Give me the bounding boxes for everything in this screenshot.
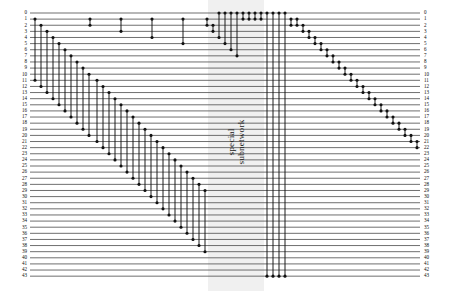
gate-control-dot xyxy=(113,97,116,100)
gate-control-dot xyxy=(149,195,152,198)
gate-control-dot xyxy=(155,140,158,143)
gate-control-dot xyxy=(253,18,256,21)
wire-label-left: 26 xyxy=(8,169,27,174)
gate-control-dot xyxy=(235,54,238,57)
gate-control-dot xyxy=(155,201,158,204)
gate-control-dot xyxy=(331,54,334,57)
gate-control-dot xyxy=(191,177,194,180)
gate-control-dot xyxy=(409,140,412,143)
wire-label-right: 28 xyxy=(424,182,444,187)
wire-label-right: 27 xyxy=(424,176,444,181)
wire-label-right: 6 xyxy=(424,47,444,52)
gate-control-dot xyxy=(203,250,206,253)
gate-control-dot xyxy=(51,97,54,100)
gate-control-dot xyxy=(271,11,274,14)
gate-control-dot xyxy=(39,85,42,88)
gate-control-dot xyxy=(39,24,42,27)
gate-control-dot xyxy=(88,18,91,21)
wire-label-right: 36 xyxy=(424,231,444,236)
wire-label-right: 3 xyxy=(424,29,444,34)
gate-control-dot xyxy=(81,128,84,131)
gate-control-dot xyxy=(197,244,200,247)
gate-control-dot xyxy=(45,91,48,94)
wire-label-right: 43 xyxy=(424,273,444,278)
gate-control-dot xyxy=(343,73,346,76)
gate-control-dot xyxy=(179,164,182,167)
gate-control-dot xyxy=(283,275,286,278)
wire-label-left: 3 xyxy=(8,29,27,34)
gate-control-dot xyxy=(349,73,352,76)
gate-control-dot xyxy=(57,103,60,106)
gate-control-dot xyxy=(69,115,72,118)
wire-label-right: 4 xyxy=(424,35,444,40)
gate-control-dot xyxy=(289,24,292,27)
gate-control-dot xyxy=(63,109,66,112)
gate-control-dot xyxy=(355,79,358,82)
wire-label-left: 1 xyxy=(8,16,27,21)
gate-control-dot xyxy=(409,134,412,137)
gate-control-dot xyxy=(355,85,358,88)
gate-control-dot xyxy=(241,18,244,21)
wire-label-right: 7 xyxy=(424,53,444,58)
gate-control-dot xyxy=(397,128,400,131)
wire-label-right: 8 xyxy=(424,59,444,64)
gate-control-dot xyxy=(397,122,400,125)
wire-label-left: 19 xyxy=(8,127,27,132)
gate-control-dot xyxy=(119,18,122,21)
gate-control-dot xyxy=(229,48,232,51)
gate-control-dot xyxy=(319,42,322,45)
gate-control-dot xyxy=(205,18,208,21)
gate-control-dot xyxy=(143,189,146,192)
wire-label-right: 19 xyxy=(424,127,444,132)
gate-control-dot xyxy=(45,30,48,33)
gate-control-dot xyxy=(181,18,184,21)
gate-control-dot xyxy=(51,36,54,39)
gate-control-dot xyxy=(149,134,152,137)
gate-control-dot xyxy=(205,24,208,27)
gate-control-dot xyxy=(150,36,153,39)
gate-control-dot xyxy=(87,134,90,137)
gate-control-dot xyxy=(403,128,406,131)
gate-control-dot xyxy=(173,158,176,161)
gate-control-dot xyxy=(373,97,376,100)
wire-label-left: 9 xyxy=(8,65,27,70)
gate-control-dot xyxy=(75,122,78,125)
wire-label-left: 36 xyxy=(8,231,27,236)
gate-control-dot xyxy=(131,177,134,180)
gate-control-dot xyxy=(415,140,418,143)
wire-label-right: 34 xyxy=(424,218,444,223)
gate-control-dot xyxy=(391,115,394,118)
gate-control-dot xyxy=(307,36,310,39)
gate-control-dot xyxy=(361,85,364,88)
wire-label-left: 34 xyxy=(8,218,27,223)
gate-control-dot xyxy=(119,164,122,167)
gate-control-dot xyxy=(211,24,214,27)
gate-control-dot xyxy=(325,48,328,51)
wire-label-left: 35 xyxy=(8,225,27,230)
gate-control-dot xyxy=(403,134,406,137)
gate-control-dot xyxy=(277,11,280,14)
gate-control-dot xyxy=(223,11,226,14)
gate-control-dot xyxy=(95,79,98,82)
gate-control-dot xyxy=(373,103,376,106)
gate-control-dot xyxy=(331,60,334,63)
gate-control-dot xyxy=(235,11,238,14)
wire-label-right: 5 xyxy=(424,41,444,46)
wire-label-right: 11 xyxy=(424,78,444,83)
gate-control-dot xyxy=(203,189,206,192)
gate-control-dot xyxy=(101,146,104,149)
gate-control-dot xyxy=(125,109,128,112)
gate-control-dot xyxy=(161,207,164,210)
wire-label-left: 10 xyxy=(8,72,27,77)
gate-control-dot xyxy=(63,48,66,51)
wire-label-right: 9 xyxy=(424,65,444,70)
gate-control-dot xyxy=(88,24,91,27)
gate-control-dot xyxy=(69,54,72,57)
gate-control-dot xyxy=(113,158,116,161)
gate-control-dot xyxy=(385,109,388,112)
gate-control-dot xyxy=(313,42,316,45)
gate-control-dot xyxy=(289,18,292,21)
gate-control-dot xyxy=(301,24,304,27)
gate-control-dot xyxy=(33,79,36,82)
gate-control-dot xyxy=(379,103,382,106)
